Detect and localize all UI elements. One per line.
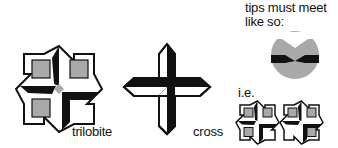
trilobite-label: trilobite bbox=[72, 125, 112, 139]
trilobite-tile-figure bbox=[14, 44, 104, 134]
tips-meet-figure bbox=[270, 30, 320, 80]
ie-label: i.e. bbox=[238, 86, 255, 100]
small-trilobite-pair-figure bbox=[235, 100, 335, 146]
cross-label: cross bbox=[193, 125, 223, 139]
tips-caption-line1: tips must meet bbox=[245, 1, 327, 15]
tips-caption-line2: like so: bbox=[245, 15, 284, 29]
cross-tile-figure bbox=[122, 42, 212, 136]
